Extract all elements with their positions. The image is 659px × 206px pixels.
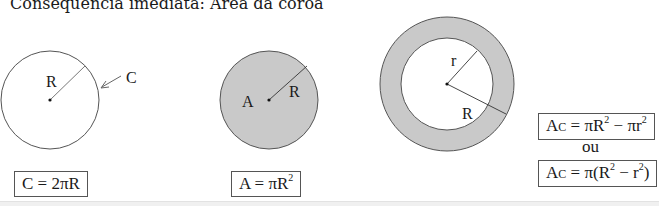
formula-rhs: = 2πR	[33, 174, 80, 193]
circumference-label: C	[126, 69, 137, 86]
circumference-formula: C = 2πR	[14, 171, 88, 197]
formula-body: A = πR	[239, 174, 288, 193]
separator-text: ou	[582, 137, 599, 157]
inner-radius-label: r	[451, 52, 457, 69]
radius-label: R	[289, 83, 300, 100]
formula-part: − r	[615, 163, 639, 182]
radius-label: R	[46, 73, 57, 90]
area-symbol: A	[546, 163, 558, 182]
formula-part: − πr	[609, 116, 641, 135]
bottom-divider	[0, 201, 659, 206]
area-formula: A = πR2	[231, 171, 301, 197]
formula-lhs: C	[22, 174, 33, 193]
area-label: A	[242, 93, 254, 110]
annulus: r R	[380, 17, 514, 151]
annulus-formula-1: AC = πR2 − πr2	[538, 113, 655, 140]
circumference-circle: R C	[1, 51, 137, 149]
exponent: 2	[642, 114, 647, 125]
formula-exponent: 2	[288, 172, 293, 183]
outer-radius-label: R	[462, 105, 473, 122]
annulus-formula-2: AC = π(R2 − r2)	[538, 160, 657, 187]
formula-part: = π(R	[566, 163, 610, 182]
area-symbol: A	[546, 116, 558, 135]
formula-part: = πR	[566, 116, 604, 135]
formula-part: )	[644, 163, 650, 182]
area-circle: A R	[220, 51, 318, 149]
